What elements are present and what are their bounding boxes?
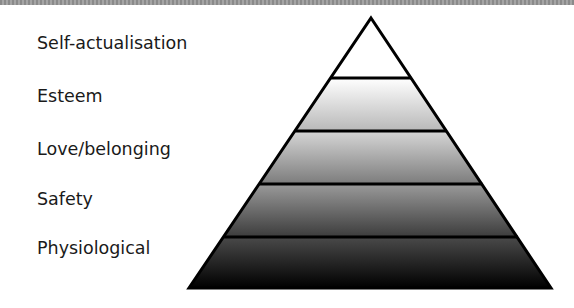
level-love-belonging xyxy=(260,131,483,184)
pyramid-diagram xyxy=(0,0,574,308)
level-self-actualisation xyxy=(331,18,411,78)
level-safety xyxy=(224,184,518,237)
level-esteem xyxy=(295,78,446,131)
level-physiological xyxy=(189,237,551,288)
